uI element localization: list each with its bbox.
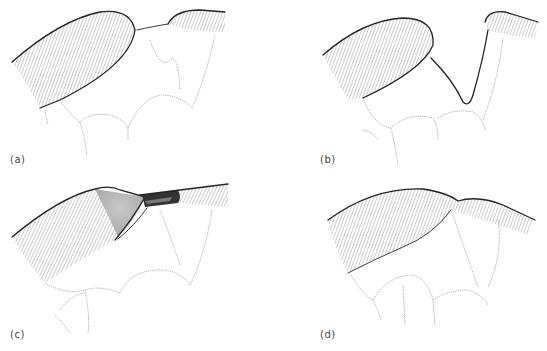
panel-c: (c)	[0, 175, 273, 350]
illustration-d	[273, 175, 546, 350]
panel-label-d: (d)	[320, 329, 336, 340]
illustration-c-main	[0, 175, 273, 350]
illustration-a	[0, 0, 273, 175]
illustration-b	[273, 0, 546, 175]
panel-d: (d)	[273, 175, 546, 350]
panel-label-b: (b)	[320, 154, 336, 165]
panel-label-a: (a)	[10, 154, 25, 165]
panel-label-c: (c)	[10, 329, 25, 340]
panel-a: (a)	[0, 0, 273, 175]
panel-b: (b)	[273, 0, 546, 175]
